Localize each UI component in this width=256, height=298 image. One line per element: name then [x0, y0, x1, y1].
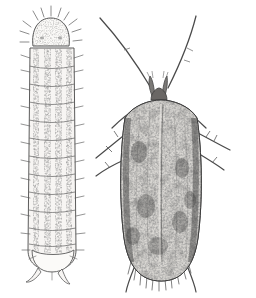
illustration-plate	[0, 0, 256, 298]
larva-head-mark-right	[58, 37, 62, 40]
larva-head-mark-left	[40, 37, 44, 40]
illustration-canvas	[0, 0, 256, 298]
